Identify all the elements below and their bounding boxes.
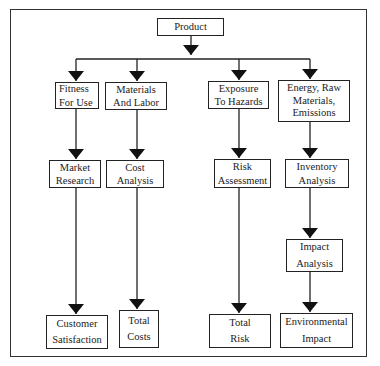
- flow-diagram: Product Fitness For Use Market Research …: [0, 0, 380, 366]
- node-environmental-impact: Environmental Impact: [280, 313, 353, 348]
- node-label: Total Costs: [127, 313, 150, 346]
- node-label: Impact Analysis: [296, 239, 333, 273]
- node-label: Cost Analysis: [117, 161, 154, 187]
- node-energy-raw-materials-emissions: Energy, Raw Materials, Emissions: [278, 80, 350, 122]
- node-label: Energy, Raw Materials, Emissions: [287, 82, 341, 120]
- node-exposure-to-hazards: Exposure To Hazards: [208, 81, 269, 109]
- node-product: Product: [157, 18, 224, 36]
- node-fitness-for-use: Fitness For Use: [55, 82, 99, 109]
- node-label: Risk Assessment: [218, 160, 268, 186]
- node-inventory-analysis: Inventory Analysis: [285, 159, 349, 188]
- node-label: Total Risk: [229, 315, 250, 348]
- node-customer-satisfaction: Customer Satisfaction: [46, 315, 108, 349]
- node-market-research: Market Research: [49, 160, 101, 188]
- node-materials-and-labor: Materials And Labor: [105, 82, 167, 110]
- node-risk-assessment: Risk Assessment: [214, 159, 271, 188]
- node-label: Fitness For Use: [59, 82, 93, 108]
- node-label: Product: [174, 20, 207, 33]
- node-cost-analysis: Cost Analysis: [106, 160, 164, 188]
- node-total-costs: Total Costs: [119, 310, 159, 348]
- node-label: Materials And Labor: [113, 83, 159, 109]
- node-total-risk: Total Risk: [209, 314, 271, 348]
- node-label: Market Research: [56, 161, 94, 187]
- node-label: Exposure To Hazards: [215, 82, 263, 108]
- node-label: Environmental Impact: [285, 314, 347, 347]
- node-label: Customer Satisfaction: [52, 316, 102, 349]
- node-impact-analysis: Impact Analysis: [286, 239, 343, 272]
- node-label: Inventory Analysis: [297, 160, 338, 186]
